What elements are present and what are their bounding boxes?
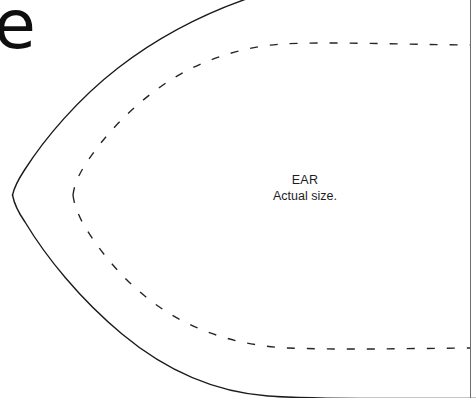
- pattern-label: EAR Actual size.: [230, 173, 380, 204]
- pattern-label-subtitle: Actual size.: [230, 189, 380, 204]
- pattern-label-title: EAR: [230, 173, 380, 188]
- letter-e-glyph: e: [0, 0, 36, 64]
- pattern-sheet: e EAR Actual size.: [0, 0, 476, 398]
